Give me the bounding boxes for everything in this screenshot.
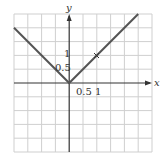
y-tick-1: 1	[64, 48, 70, 59]
curve-abs-x	[14, 14, 138, 83]
chart: y x 1 0.5 0.5 1	[0, 0, 166, 163]
y-axis-arrow-icon	[67, 14, 72, 21]
x-axis-arrow-icon	[145, 81, 152, 86]
x-tick-1: 1	[95, 86, 101, 97]
y-axis-label: y	[65, 2, 72, 13]
x-tick-0.5: 0.5	[76, 86, 92, 97]
y-tick-0.5: 0.5	[55, 62, 71, 73]
x-axis-label: x	[154, 77, 160, 88]
